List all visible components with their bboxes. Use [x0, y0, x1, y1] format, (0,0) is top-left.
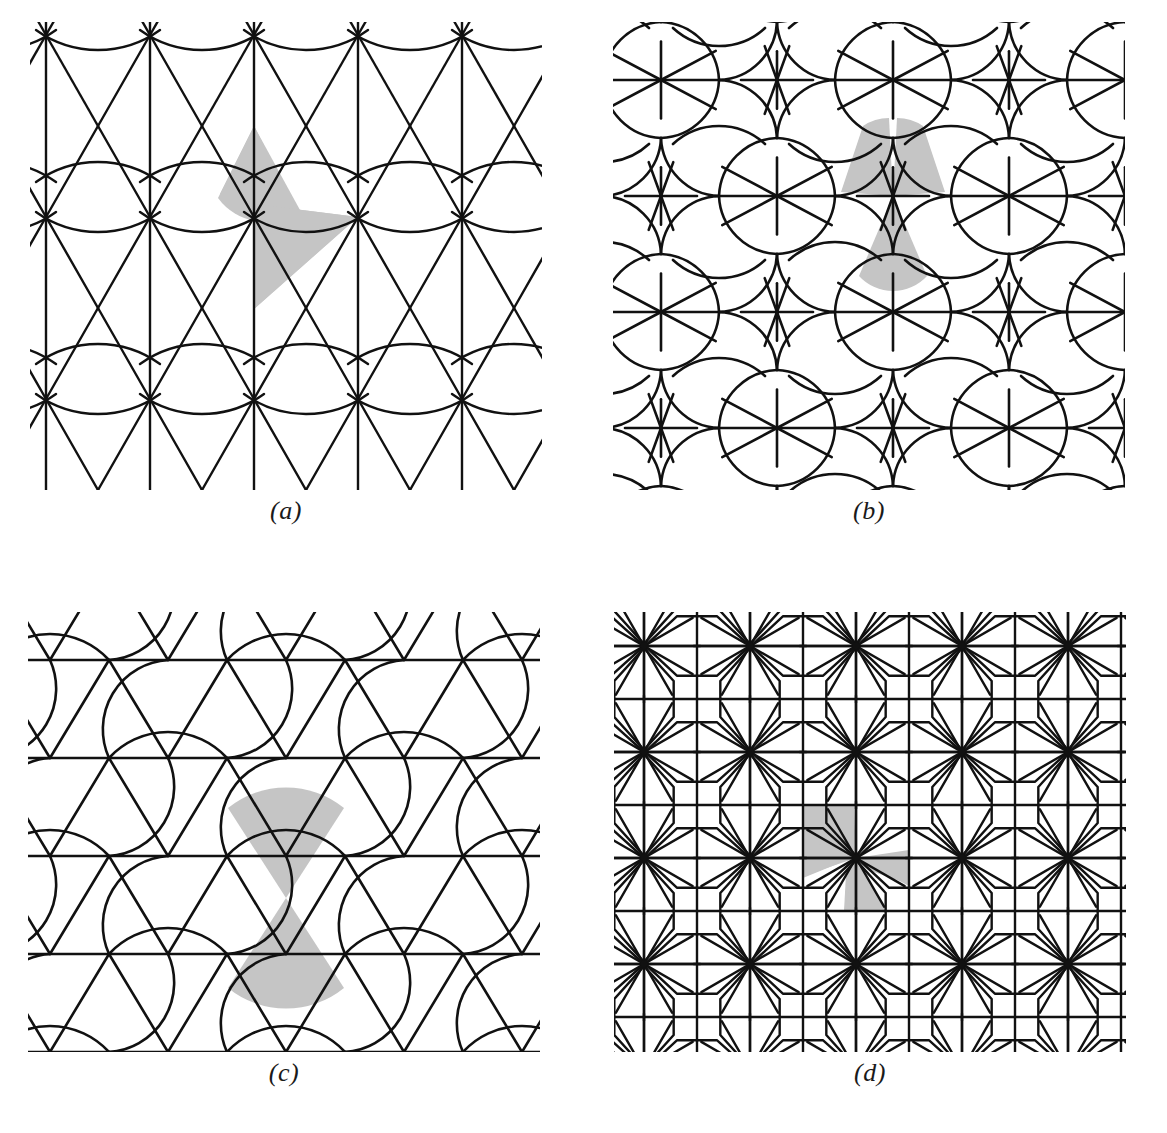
- curve-arc: [893, 486, 951, 490]
- link-arc: [905, 28, 997, 46]
- curve-arc: [661, 22, 719, 80]
- diagonal-line: [150, 22, 202, 35]
- curve-arc: [777, 370, 835, 428]
- bulge-arc: [227, 1026, 345, 1052]
- curve-arc: [613, 486, 661, 490]
- arc-lower: [244, 394, 368, 414]
- spoke-line: [838, 312, 893, 341]
- star-hub: [747, 643, 754, 650]
- spoke-line: [613, 51, 661, 80]
- spoke-line: [1070, 80, 1125, 109]
- curve-arc: [1067, 486, 1125, 490]
- curve-arc: [1067, 138, 1125, 196]
- curve-arc: [951, 22, 1009, 80]
- spoke-line: [954, 196, 1009, 225]
- curve-arc: [777, 22, 835, 80]
- curve-arc: [951, 80, 1009, 138]
- curve-arc: [777, 196, 835, 254]
- spoke-line: [661, 394, 673, 428]
- diagonal-line: [109, 856, 168, 954]
- curve-arc: [1067, 22, 1125, 80]
- spoke-line: [613, 283, 661, 312]
- spoke-line: [722, 428, 777, 457]
- curve-arc: [1009, 196, 1067, 254]
- star-hub: [1065, 643, 1072, 650]
- curve-arc: [893, 370, 951, 428]
- curve-arc: [661, 254, 719, 312]
- arc-lower: [36, 394, 160, 414]
- spoke-line: [777, 428, 832, 457]
- diagonal-line: [306, 22, 358, 35]
- bulge-arc: [28, 1026, 109, 1052]
- link-arc: [673, 260, 765, 278]
- spoke-line: [765, 46, 777, 80]
- sweep-arc: [28, 758, 50, 856]
- curve-arc: [1009, 312, 1067, 370]
- spoke-line: [722, 167, 777, 196]
- spoke-line: [997, 80, 1009, 114]
- diagonal-line: [463, 856, 522, 954]
- curve-arc: [951, 196, 1009, 254]
- diagonal-line: [168, 612, 227, 660]
- arc-lower: [140, 394, 264, 414]
- curve-arc: [835, 312, 893, 370]
- diagonal-line: [345, 856, 404, 954]
- arc-upper: [140, 344, 264, 364]
- star-hub: [641, 643, 648, 650]
- curve-arc: [777, 254, 835, 312]
- diagonal-line: [168, 954, 227, 1052]
- star-hub: [853, 961, 860, 968]
- link-arc: [905, 358, 997, 376]
- link-arc: [613, 22, 649, 28]
- panel-a-caption: (a): [30, 496, 542, 526]
- tessellation-c: [28, 612, 540, 1052]
- curve-arc: [1067, 370, 1125, 428]
- curve-arc: [719, 370, 777, 428]
- spoke-line: [997, 46, 1009, 80]
- link-arc: [789, 376, 881, 394]
- spoke-line: [777, 312, 789, 346]
- spoke-line: [1113, 428, 1125, 462]
- spoke-line: [661, 80, 716, 109]
- link-arc: [789, 22, 881, 28]
- curve-arc: [1067, 312, 1125, 370]
- spoke-line: [777, 399, 832, 428]
- bulge-arc: [345, 732, 463, 758]
- spoke-line: [893, 51, 948, 80]
- spoke-line: [954, 167, 1009, 196]
- curve-arc: [951, 138, 1009, 196]
- spoke-line: [1009, 399, 1064, 428]
- curve-arc: [1009, 80, 1067, 138]
- curve-arc: [777, 138, 835, 196]
- curve-arc: [777, 312, 835, 370]
- curve-arc: [661, 486, 719, 490]
- arc-upper: [348, 344, 472, 364]
- curve-arc: [661, 80, 719, 138]
- arc-lower: [348, 212, 472, 232]
- diagonal-line: [50, 660, 109, 758]
- diagonal-line: [30, 217, 46, 308]
- curve-arc: [1067, 80, 1125, 138]
- panel-b-caption: (b): [613, 496, 1125, 526]
- spoke-line: [1009, 196, 1064, 225]
- star-ray: [1125, 1042, 1126, 1052]
- curve-arc: [613, 80, 661, 138]
- curve-arc: [951, 428, 1009, 486]
- curve-arc: [719, 196, 777, 254]
- spoke-line: [893, 312, 948, 341]
- curve-arc: [1009, 370, 1067, 428]
- star-ray: [1125, 936, 1126, 964]
- star-hub: [959, 961, 966, 968]
- bulge-arc: [227, 634, 345, 660]
- spoke-line: [954, 399, 1009, 428]
- link-arc: [1021, 474, 1113, 490]
- arc-lower: [348, 394, 472, 414]
- spoke-line: [613, 80, 661, 109]
- diagonal-line: [109, 954, 168, 1052]
- link-arc: [1021, 242, 1113, 260]
- panel-b-content: [613, 22, 1125, 490]
- spoke-line: [838, 51, 893, 80]
- diagonal-line: [358, 22, 410, 35]
- curve-arc: [1067, 196, 1125, 254]
- arc-lower: [244, 30, 368, 50]
